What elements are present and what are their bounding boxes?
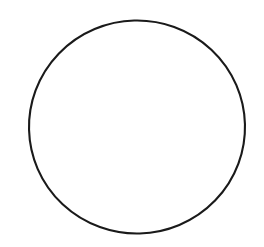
canvas-background — [0, 0, 264, 247]
circle-figure — [0, 0, 264, 247]
drawing-canvas — [0, 0, 264, 247]
